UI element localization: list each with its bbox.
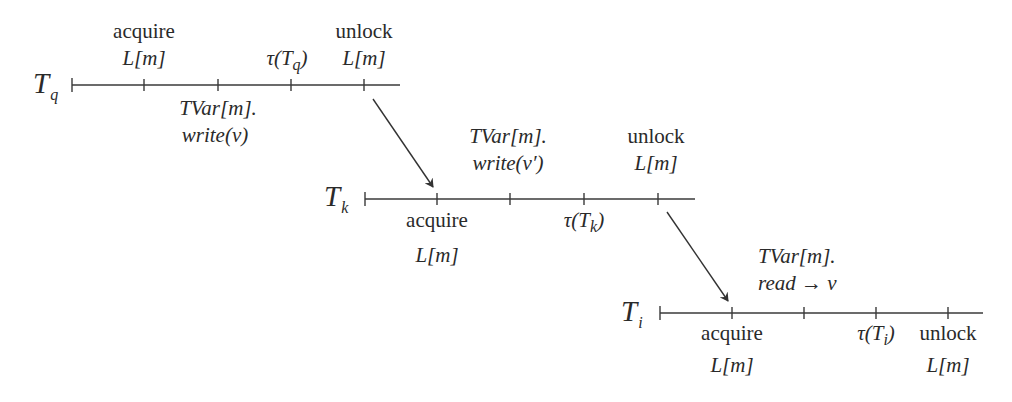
svg-text:τ(Tq): τ(Tq) (266, 46, 307, 74)
svg-text:L[m]: L[m] (925, 353, 969, 377)
event-ti-unlock: unlock L[m] (919, 321, 977, 377)
event-tq-tau: τ(Tq) (266, 46, 307, 74)
svg-text:TVar[m].: TVar[m]. (758, 244, 836, 268)
event-tk-unlock: unlock L[m] (627, 124, 685, 175)
svg-text:L[m]: L[m] (341, 46, 385, 70)
thread-ti: Ti TVar[m]. read → v acquire L[m] τ(Ti) … (621, 244, 983, 377)
thread-ti-label: Ti (621, 295, 643, 331)
thread-tk: Tk TVar[m]. write(v′) unlock L[m] acquir… (324, 124, 695, 267)
svg-text:TVar[m].: TVar[m]. (179, 96, 257, 120)
svg-text:unlock: unlock (919, 321, 977, 345)
event-tk-acquire: acquire L[m] (406, 208, 468, 267)
thread-ti-timeline (660, 306, 983, 320)
svg-text:acquire: acquire (113, 19, 175, 43)
svg-text:L[m]: L[m] (633, 151, 677, 175)
event-tk-write: TVar[m]. write(v′) (469, 124, 547, 175)
svg-text:acquire: acquire (701, 321, 763, 345)
thread-tq: Tq acquire L[m] τ(Tq) unlock L[m] TVar[m… (33, 19, 400, 147)
thread-tq-timeline (72, 78, 400, 92)
lock-timeline-diagram: Tq acquire L[m] τ(Tq) unlock L[m] TVar[m… (0, 0, 1012, 402)
svg-text:τ(Tk): τ(Tk) (564, 208, 604, 235)
thread-tk-timeline (365, 192, 695, 206)
svg-text:L[m]: L[m] (414, 243, 458, 267)
svg-text:write(v′): write(v′) (472, 151, 543, 175)
event-ti-read: TVar[m]. read → v (758, 244, 837, 295)
event-tk-tau: τ(Tk) (564, 208, 604, 235)
event-tq-unlock: unlock L[m] (335, 19, 393, 70)
event-tq-acquire: acquire L[m] (113, 19, 175, 70)
svg-text:unlock: unlock (335, 19, 393, 43)
svg-text:unlock: unlock (627, 124, 685, 148)
svg-text:read → v: read → v (758, 271, 837, 295)
svg-text:L[m]: L[m] (121, 46, 165, 70)
svg-text:τ(Ti): τ(Ti) (857, 321, 895, 348)
event-ti-acquire: acquire L[m] (701, 321, 763, 377)
event-ti-tau: τ(Ti) (857, 321, 895, 348)
svg-text:TVar[m].: TVar[m]. (469, 124, 547, 148)
svg-text:L[m]: L[m] (709, 353, 753, 377)
svg-text:write(v): write(v) (182, 123, 248, 147)
arrow-tq-unlock-to-tk-acquire (373, 99, 433, 187)
svg-text:acquire: acquire (406, 208, 468, 232)
thread-tq-label: Tq (33, 67, 58, 104)
arrow-tk-unlock-to-ti-acquire (667, 212, 728, 301)
event-tq-write: TVar[m]. write(v) (179, 96, 257, 147)
thread-tk-label: Tk (324, 180, 349, 216)
